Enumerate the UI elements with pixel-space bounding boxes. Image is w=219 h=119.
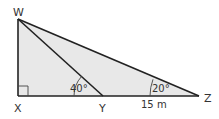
vertex-label-y: Y xyxy=(98,102,106,115)
angle-label-20: 20° xyxy=(152,83,170,94)
triangle-diagram: W X Y Z 40° 20° 15 m xyxy=(0,0,219,119)
angle-label-40: 40° xyxy=(70,83,88,94)
vertex-label-z: Z xyxy=(204,92,212,105)
length-label-yz: 15 m xyxy=(141,99,167,110)
vertex-label-x: X xyxy=(14,102,22,115)
vertex-label-w: W xyxy=(13,6,24,19)
